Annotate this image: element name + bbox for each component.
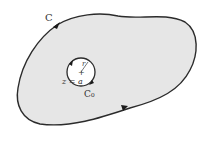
center-marker: + [78,68,85,77]
label-C0: C₀ [84,89,95,99]
contour-diagram: + C r z = a C₀ [0,0,209,142]
label-C: C [45,12,53,23]
outer-contour-C [17,14,196,125]
label-z-equals-a: z = a [61,77,83,86]
